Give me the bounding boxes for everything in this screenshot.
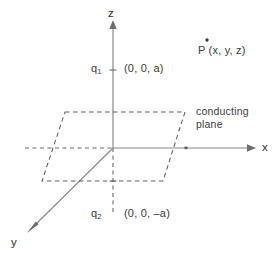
y-axis-arrowhead [27, 221, 39, 233]
x-axis-arrowhead [247, 144, 256, 151]
charge-lower-coords: (0, 0, –a) [124, 207, 170, 219]
charge-lower-subscript: 2 [97, 212, 101, 221]
conducting-plane-label-line1: conducting [196, 105, 249, 118]
charge-upper-subscript: 1 [97, 67, 101, 76]
y-axis-label: y [11, 236, 17, 248]
physics-diagram-canvas: z x y q1 (0, 0, a) q2 (0, 0, –a) P (x, y… [0, 0, 276, 263]
diagram-vector-layer [0, 0, 276, 263]
z-axis-arrowhead [109, 20, 116, 29]
charge-upper-label: q1 [91, 62, 102, 74]
charge-lower-label: q2 [91, 207, 102, 219]
point-p-label: P (x, y, z) [198, 44, 246, 56]
x-axis-tick [185, 147, 188, 150]
conducting-plane-label-line2: plane [196, 118, 223, 131]
x-axis-label: x [262, 141, 268, 153]
charge-upper-coords: (0, 0, a) [124, 62, 164, 74]
z-axis-label: z [108, 7, 114, 19]
point-p-marker [205, 38, 208, 41]
